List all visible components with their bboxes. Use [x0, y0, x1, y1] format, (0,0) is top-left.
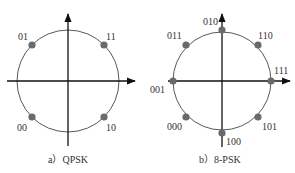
- constellation-point: [169, 77, 176, 84]
- constellation-point: [254, 41, 261, 48]
- point-label: 101: [262, 121, 277, 132]
- qpsk-diagram: 01110010 a）QPSK: [7, 14, 135, 165]
- point-label: 01: [18, 31, 28, 42]
- constellation-point: [254, 113, 261, 120]
- point-label: 000: [167, 121, 182, 132]
- point-label: 100: [226, 136, 241, 147]
- qpsk-caption: a）QPSK: [48, 154, 89, 165]
- point-label: 10: [106, 122, 116, 133]
- point-label: 11: [106, 31, 116, 42]
- 8psk-diagram: 010011110001111000101100 b）8-PSK: [150, 14, 290, 165]
- 8psk-caption: b）8-PSK: [199, 154, 241, 165]
- constellation-point: [100, 113, 107, 120]
- constellation-point: [28, 41, 35, 48]
- constellation-point: [218, 129, 225, 136]
- point-label: 110: [258, 30, 273, 41]
- point-label: 111: [274, 65, 288, 76]
- constellation-point: [182, 41, 189, 48]
- constellation-diagrams: 01110010 a）QPSK 010011110001111000101100…: [0, 0, 295, 173]
- point-label: 001: [150, 84, 165, 95]
- constellation-point: [182, 113, 189, 120]
- constellation-point: [267, 77, 274, 84]
- constellation-point: [100, 41, 107, 48]
- point-label: 011: [167, 30, 182, 41]
- constellation-point: [218, 26, 225, 33]
- point-label: 010: [203, 16, 218, 27]
- constellation-point: [28, 113, 35, 120]
- point-label: 00: [17, 122, 27, 133]
